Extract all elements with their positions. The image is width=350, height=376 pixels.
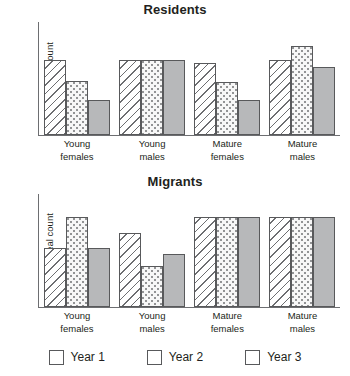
legend-item-year1: Year 1 <box>49 350 105 365</box>
bar-year3 <box>88 248 110 307</box>
x-axis-line <box>38 307 340 308</box>
x-tick-line1: Mature <box>190 310 265 323</box>
x-tick-line2: females <box>39 323 114 336</box>
bar-year2 <box>66 81 88 135</box>
x-tick-line2: females <box>39 151 114 164</box>
x-tick-line1: Young <box>39 310 114 323</box>
x-tick-mature-males: Mature males <box>265 138 340 163</box>
bar-groups-migrants <box>39 194 340 307</box>
x-tick-line1: Mature <box>190 138 265 151</box>
x-axis-line <box>38 135 340 136</box>
bar-year2 <box>216 217 238 307</box>
x-axis-tick-labels-residents: Young females Young males Mature females… <box>39 138 340 163</box>
legend-item-year2: Year 2 <box>147 350 203 365</box>
x-tick-line2: males <box>115 323 190 336</box>
bar-year1 <box>269 217 291 307</box>
legend-label-year3: Year 3 <box>267 350 301 364</box>
bar-year1 <box>44 60 66 134</box>
x-tick-line1: Mature <box>265 310 340 323</box>
bar-year2 <box>141 60 163 134</box>
legend-item-year3: Year 3 <box>245 350 301 365</box>
bar-year3 <box>163 60 185 134</box>
legend-swatch-diagonal-hatch-icon <box>49 350 64 365</box>
panel-migrants: Migrants Blue-Wing teal count <box>0 172 350 342</box>
bar-year1 <box>119 60 141 134</box>
bar-year2 <box>141 266 163 307</box>
bar-year2 <box>216 82 238 135</box>
bar-year1 <box>194 63 216 135</box>
x-tick-line2: males <box>265 323 340 336</box>
x-tick-mature-females: Mature females <box>190 310 265 335</box>
bar-year3 <box>238 217 260 307</box>
bar-year3 <box>163 254 185 307</box>
x-tick-line2: females <box>190 323 265 336</box>
bar-year1 <box>194 217 216 307</box>
x-tick-line1: Young <box>115 310 190 323</box>
bar-year3 <box>313 67 335 135</box>
bar-group-mature-males <box>265 22 340 135</box>
x-tick-young-males: Young males <box>115 310 190 335</box>
bar-group-mature-females <box>190 194 265 307</box>
bar-group-young-females <box>39 22 114 135</box>
bar-group-young-males <box>115 194 190 307</box>
plot-area-residents <box>38 22 340 136</box>
x-tick-mature-females: Mature females <box>190 138 265 163</box>
x-tick-mature-males: Mature males <box>265 310 340 335</box>
x-tick-line2: males <box>115 151 190 164</box>
bar-year2 <box>291 46 313 135</box>
chart-legend: Year 1 Year 2 Year 3 <box>0 342 350 372</box>
panel-residents: Residents Blue-Wing teal count <box>0 0 350 172</box>
bar-chart-figure: Residents Blue-Wing teal count <box>0 0 350 376</box>
x-tick-line1: Young <box>39 138 114 151</box>
plot-area-migrants <box>38 194 340 308</box>
legend-label-year2: Year 2 <box>169 350 203 364</box>
x-tick-line1: Mature <box>265 138 340 151</box>
bar-group-young-males <box>115 22 190 135</box>
bar-group-young-females <box>39 194 114 307</box>
bar-groups-residents <box>39 22 340 135</box>
panel-title-residents: Residents <box>0 2 350 17</box>
bar-year1 <box>44 248 66 307</box>
bar-year1 <box>269 60 291 134</box>
bar-year2 <box>66 217 88 307</box>
x-tick-line1: Young <box>115 138 190 151</box>
bar-group-mature-females <box>190 22 265 135</box>
panel-title-migrants: Migrants <box>0 174 350 189</box>
x-tick-young-females: Young females <box>39 310 114 335</box>
bar-year3 <box>88 100 110 135</box>
legend-swatch-dotted-stipple-icon <box>147 350 162 365</box>
x-tick-line2: males <box>265 151 340 164</box>
bar-year2 <box>291 217 313 307</box>
x-tick-young-males: Young males <box>115 138 190 163</box>
bar-group-mature-males <box>265 194 340 307</box>
bar-year3 <box>238 100 260 135</box>
bar-year1 <box>119 233 141 306</box>
bar-year3 <box>313 217 335 307</box>
legend-label-year1: Year 1 <box>71 350 105 364</box>
legend-swatch-solid-gray-icon <box>245 350 260 365</box>
x-tick-young-females: Young females <box>39 138 114 163</box>
x-tick-line2: females <box>190 151 265 164</box>
x-axis-tick-labels-migrants: Young females Young males Mature females… <box>39 310 340 335</box>
